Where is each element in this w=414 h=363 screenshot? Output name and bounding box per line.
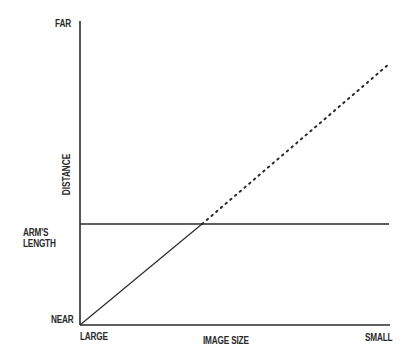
near-label: NEAR (51, 314, 74, 325)
image-size-axis-label: IMAGE SIZE (203, 335, 249, 346)
arms-length-label-line2: LENGTH (23, 238, 56, 249)
large-label: LARGE (80, 331, 108, 342)
distance-axis-label: DISTANCE (61, 153, 72, 196)
solid-diagonal-line (80, 224, 202, 325)
far-label: FAR (55, 18, 71, 29)
arms-length-label-line1: ARM'S (23, 227, 48, 238)
dotted-diagonal-line (202, 64, 389, 224)
small-label: SMALL (365, 332, 392, 343)
